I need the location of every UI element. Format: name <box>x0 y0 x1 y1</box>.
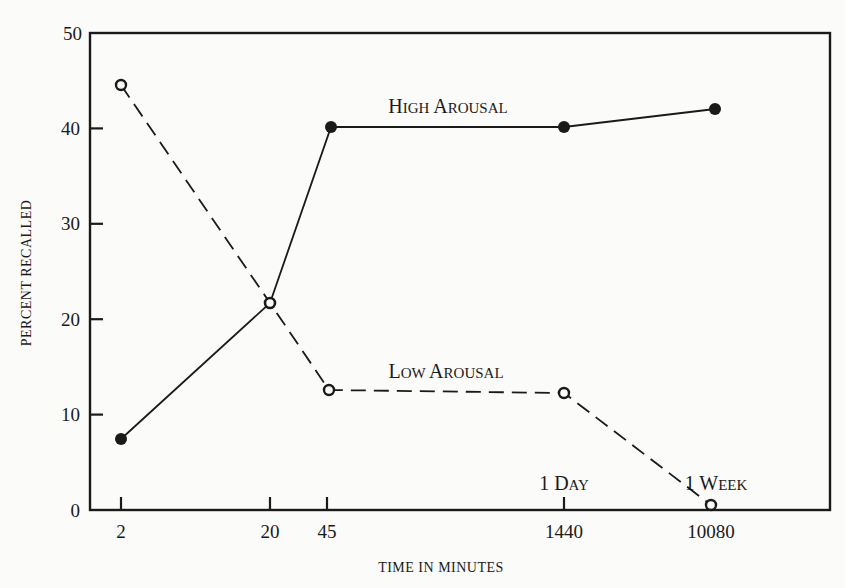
y-axis-tick-labels: 0 10 20 30 40 50 <box>61 23 82 521</box>
y-tick-40: 40 <box>61 118 80 139</box>
low-point-45 <box>324 385 334 395</box>
high-point-10080 <box>709 103 721 115</box>
x-axis-tick-labels: 2 20 45 1440 10080 <box>116 521 735 542</box>
y-tick-0: 0 <box>71 500 81 521</box>
high-point-45 <box>325 121 337 133</box>
low-arousal-line <box>121 85 711 505</box>
high-point-1440 <box>558 121 570 133</box>
x-tick-1440: 1440 <box>545 521 583 542</box>
high-point-2 <box>115 433 127 445</box>
y-axis-title: PERCENT RECALLED <box>19 200 34 347</box>
y-tick-30: 30 <box>61 213 80 234</box>
annotation-1-week: 1 WEEK <box>685 472 748 494</box>
series-high-arousal <box>115 103 721 445</box>
y-axis-ticks <box>90 128 103 414</box>
y-tick-20: 20 <box>61 309 80 330</box>
low-point-10080 <box>706 500 716 510</box>
low-point-2 <box>116 80 126 90</box>
y-tick-50: 50 <box>63 23 82 44</box>
x-tick-45: 45 <box>318 521 337 542</box>
annotation-1-day: 1 DAY <box>539 472 589 494</box>
chart: 0 10 20 30 40 50 2 20 45 1440 10080 TIME… <box>0 0 845 588</box>
low-point-1440 <box>559 388 569 398</box>
low-arousal-markers <box>116 80 716 510</box>
x-axis-title: TIME IN MINUTES <box>378 560 504 575</box>
x-axis-ticks <box>121 497 564 510</box>
label-low-arousal: LOW AROUSAL <box>388 360 503 382</box>
x-tick-10080: 10080 <box>687 521 735 542</box>
high-arousal-line <box>121 109 715 439</box>
y-tick-10: 10 <box>61 404 80 425</box>
label-high-arousal: HIGH AROUSAL <box>388 95 507 117</box>
x-tick-20: 20 <box>261 521 280 542</box>
x-tick-2: 2 <box>116 521 126 542</box>
series-low-arousal <box>121 85 711 505</box>
shared-point-20 <box>265 298 275 308</box>
